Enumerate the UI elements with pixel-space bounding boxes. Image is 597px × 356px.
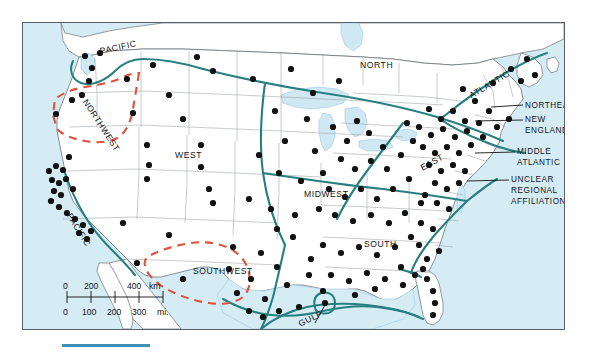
callout-unclear-line3: AFFILIATION: [511, 197, 565, 206]
scale-mi-100: 100: [82, 307, 96, 317]
scale-km-zero: 0: [63, 281, 68, 291]
figure-root: PACIFIC PACIFIC NORTHWEST WEST NORTH MID…: [0, 0, 597, 356]
callout-unclear-line1: UNCLEAR: [511, 175, 554, 184]
callout-new-england-line1: NEW: [525, 115, 546, 124]
callout-new-england-line2: ENGLAND: [525, 126, 565, 135]
region-label-south: SOUTH: [364, 239, 397, 249]
scale-mi-unit: mi.: [157, 307, 168, 317]
region-label-north: NORTH: [360, 60, 393, 70]
lake-erie: [359, 139, 393, 151]
map-canvas: [23, 23, 564, 329]
callout-unclear-line2: REGIONAL: [511, 186, 558, 195]
callout-middle-atlantic-line1: MIDDLE: [517, 147, 551, 156]
scale-mi-zero: 0: [63, 307, 68, 317]
scale-km-unit: km: [149, 281, 160, 291]
map-frame: PACIFIC PACIFIC NORTHWEST WEST NORTH MID…: [22, 22, 565, 330]
callout-northeast: NORTHEAST: [525, 101, 565, 110]
scale-km-400: 400: [127, 281, 141, 291]
region-label-west: WEST: [175, 150, 202, 160]
region-label-acadia: ACADIA: [326, 327, 361, 330]
scale-mi-300: 300: [132, 307, 146, 317]
region-label-southwest: SOUTHWEST: [193, 266, 253, 276]
caption-rule: [62, 344, 150, 347]
scale-km-200: 200: [84, 281, 98, 291]
callout-middle-atlantic-line2: ATLANTIC: [517, 158, 560, 167]
scale-mi-200: 200: [107, 307, 121, 317]
region-label-midwest: MIDWEST: [304, 189, 348, 199]
